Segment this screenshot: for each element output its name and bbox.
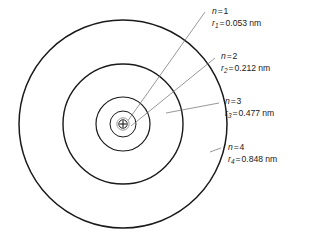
r-unit-n3: nm — [260, 108, 274, 118]
leader-line-n3 — [166, 103, 219, 113]
r-unit-n4: nm — [263, 154, 277, 164]
shell-label-n4: n=4 r4=0.848nm — [228, 142, 277, 167]
shell-label-n1-quantum-number: n=1 — [212, 6, 261, 18]
shell-label-n3-quantum-number: n=3 — [225, 96, 274, 108]
atom-diagram-canvas — [0, 0, 317, 246]
r-unit-n2: nm — [256, 63, 270, 73]
r-value-n4: 0.848 — [241, 154, 263, 164]
n-value-n3: 3 — [237, 96, 242, 106]
n-value-n2: 2 — [233, 51, 238, 61]
equals-sign-n1: = — [217, 6, 224, 16]
bohr-model-figure: n=1 r1=0.053nm n=2 r2=0.212nm n=3 r3=0.4… — [0, 0, 317, 246]
shell-label-n2-radius: r2=0.212nm — [221, 63, 270, 77]
shell-label-n4-radius: r4=0.848nm — [228, 154, 277, 168]
equals-sign-n3: = — [230, 96, 237, 106]
shell-label-n1-radius: r1=0.053nm — [212, 18, 261, 32]
shell-label-n3-radius: r3=0.477nm — [225, 108, 274, 122]
shell-label-n1: n=1 r1=0.053nm — [212, 6, 261, 31]
equals-sign-n2: = — [226, 51, 233, 61]
shell-label-n2-quantum-number: n=2 — [221, 51, 270, 63]
r-unit-n1: nm — [247, 18, 261, 28]
leader-line-n4 — [210, 148, 221, 152]
equals-sign-n4: = — [233, 142, 240, 152]
shell-label-n2: n=2 r2=0.212nm — [221, 51, 270, 76]
n-value-n1: 1 — [224, 6, 229, 16]
r-value-n2: 0.212 — [234, 63, 256, 73]
shell-label-n3: n=3 r3=0.477nm — [225, 96, 274, 121]
n-value-n4: 4 — [240, 142, 245, 152]
r-value-n3: 0.477 — [238, 108, 260, 118]
shell-label-n4-quantum-number: n=4 — [228, 142, 277, 154]
r-value-n1: 0.053 — [225, 18, 247, 28]
